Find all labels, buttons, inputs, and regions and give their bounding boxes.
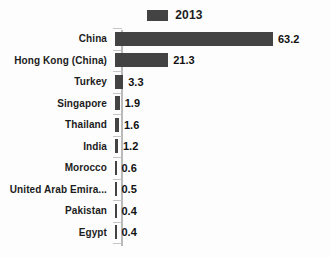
bar[interactable] [115, 139, 118, 153]
bar-wrapper: 3.3 [115, 71, 330, 93]
bar-wrapper: 0.4 [115, 222, 330, 244]
bar[interactable] [115, 32, 273, 46]
bar-wrapper: 0.5 [115, 179, 330, 201]
chart-legend: 2013 [0, 4, 330, 26]
bar-value-label: 1.9 [125, 97, 140, 109]
chart-row: Turkey3.3 [0, 71, 330, 93]
bar[interactable] [115, 53, 168, 67]
bar-chart: 2013 China63.2Hong Kong (China)21.3Turke… [0, 0, 330, 257]
bar-value-label: 0.4 [122, 226, 137, 238]
chart-row: Pakistan0.4 [0, 200, 330, 222]
bar-value-label: 0.5 [122, 183, 137, 195]
category-label: Egypt [0, 227, 113, 238]
bar[interactable] [115, 225, 117, 239]
chart-row: India1.2 [0, 136, 330, 158]
category-label: Turkey [0, 76, 113, 87]
bar[interactable] [115, 118, 119, 132]
category-label: Singapore [0, 98, 113, 109]
chart-row: China63.2 [0, 28, 330, 50]
bar-value-label: 0.4 [122, 205, 137, 217]
bar-value-label: 0.6 [122, 162, 137, 174]
category-label: Morocco [0, 162, 113, 173]
axis-tick [113, 243, 122, 244]
legend-label-2013: 2013 [175, 8, 203, 22]
bar-value-label: 21.3 [173, 54, 194, 66]
bar[interactable] [115, 182, 117, 196]
bar-value-label: 1.6 [124, 119, 139, 131]
bar[interactable] [115, 204, 117, 218]
bar-wrapper: 1.9 [115, 93, 330, 115]
bar-wrapper: 21.3 [115, 50, 330, 72]
bar-value-label: 3.3 [128, 76, 143, 88]
bar[interactable] [115, 75, 123, 89]
category-label: Hong Kong (China) [0, 55, 113, 66]
bar-value-label: 63.2 [278, 33, 299, 45]
bar[interactable] [115, 161, 117, 175]
plot-area: China63.2Hong Kong (China)21.3Turkey3.3S… [0, 28, 330, 248]
chart-row: Hong Kong (China)21.3 [0, 50, 330, 72]
chart-row: United Arab Emira...0.5 [0, 179, 330, 201]
category-label: United Arab Emira... [0, 184, 113, 195]
chart-rows: China63.2Hong Kong (China)21.3Turkey3.3S… [0, 28, 330, 248]
chart-row: Thailand1.6 [0, 114, 330, 136]
bar-value-label: 1.2 [123, 140, 138, 152]
bar-wrapper: 0.6 [115, 157, 330, 179]
chart-row: Egypt0.4 [0, 222, 330, 244]
category-label: China [0, 33, 113, 44]
bar-wrapper: 1.6 [115, 114, 330, 136]
bar-wrapper: 1.2 [115, 136, 330, 158]
bar[interactable] [115, 96, 120, 110]
category-label: Pakistan [0, 205, 113, 216]
category-label: India [0, 141, 113, 152]
category-label: Thailand [0, 119, 113, 130]
chart-row: Singapore1.9 [0, 93, 330, 115]
bar-wrapper: 0.4 [115, 200, 330, 222]
legend-swatch-2013 [147, 10, 168, 21]
chart-row: Morocco0.6 [0, 157, 330, 179]
bar-wrapper: 63.2 [115, 28, 330, 50]
